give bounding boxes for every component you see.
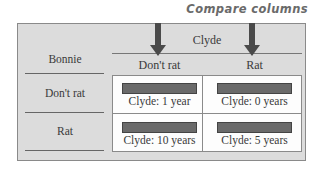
row-divider: [25, 150, 104, 151]
payoff-cell-rat-rat: Clyde: 5 years: [207, 114, 302, 152]
column-header-rat: Rat: [207, 58, 302, 73]
column-header-divider: [112, 53, 302, 54]
arrow-down-icon: [150, 23, 166, 56]
payoff-text: Clyde: 10 years: [112, 134, 207, 146]
payoff-bar: [122, 83, 197, 94]
column-player-label: Clyde: [112, 33, 302, 48]
row-header-rat: Rat: [25, 125, 105, 137]
payoff-bar: [217, 83, 292, 94]
payoff-text: Clyde: 0 years: [207, 95, 302, 107]
payoff-text: Clyde: 5 years: [207, 134, 302, 146]
payoff-cell-dontrat-dontrat: Clyde: 1 year: [112, 75, 207, 113]
payoff-bar: [122, 122, 197, 133]
diagram-title: Compare columns: [186, 2, 308, 16]
payoff-bar: [217, 122, 292, 133]
payoff-text: Clyde: 1 year: [112, 95, 207, 107]
row-player-label: Bonnie: [25, 53, 105, 65]
arrow-down-icon: [244, 23, 260, 56]
payoff-cell-rat-dontrat: Clyde: 10 years: [112, 114, 207, 152]
row-divider: [25, 112, 104, 113]
row-divider: [25, 73, 104, 74]
row-header-dont-rat: Don't rat: [25, 87, 105, 99]
payoff-cell-dontrat-rat: Clyde: 0 years: [207, 75, 302, 113]
column-header-dont-rat: Don't rat: [112, 58, 207, 73]
